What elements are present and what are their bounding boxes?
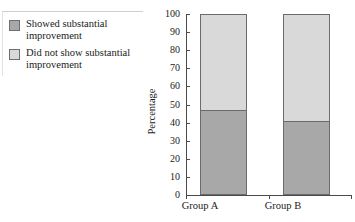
bar-segment-no-improvement-a <box>201 15 246 110</box>
y-axis-title: Percentage <box>146 73 157 151</box>
y-axis-ticks: 100 90 80 70 60 50 40 30 20 10 0 <box>160 10 186 195</box>
y-tick-label-50: 50 <box>170 100 180 110</box>
bar-group-b[interactable] <box>283 14 330 195</box>
x-tickmark-right <box>351 195 352 199</box>
legend-label-showed-improvement: Showed substantial improvement <box>26 18 138 41</box>
legend-swatch-icon-light <box>9 49 20 60</box>
x-tick-label-group-a: Group A <box>157 200 243 212</box>
y-tick-label-20: 20 <box>170 154 180 164</box>
x-tickmark-left <box>186 195 187 199</box>
y-tick-label-70: 70 <box>170 63 180 73</box>
y-tick-label-30: 30 <box>170 136 180 146</box>
y-tick-label-80: 80 <box>170 45 180 55</box>
bar-group <box>186 14 352 195</box>
legend-item-showed-improvement: Showed substantial improvement <box>9 18 143 41</box>
bar-group-a[interactable] <box>200 14 247 195</box>
legend-item-no-improvement: Did not show substantial improvement <box>9 47 143 70</box>
y-tick-label-100: 100 <box>165 9 180 19</box>
y-tick-label-60: 60 <box>170 81 180 91</box>
legend-swatch-icon-dark <box>9 20 20 31</box>
plot-area: Percentage 100 90 80 70 60 50 40 30 20 1… <box>138 10 355 222</box>
legend-label-no-improvement: Did not show substantial improvement <box>26 47 138 70</box>
chart-legend: Showed substantial improvement Did not s… <box>2 11 143 76</box>
y-tick-label-90: 90 <box>170 27 180 37</box>
chart-figure: Showed substantial improvement Did not s… <box>0 0 355 222</box>
y-tick-label-10: 10 <box>170 172 180 182</box>
bar-segment-showed-improvement-a <box>201 110 246 194</box>
bar-segment-no-improvement-b <box>284 15 329 121</box>
bar-segment-showed-improvement-b <box>284 121 329 194</box>
y-tick-label-0: 0 <box>175 190 180 200</box>
y-tick-label-40: 40 <box>170 118 180 128</box>
x-tick-label-group-b: Group B <box>240 200 326 212</box>
x-tickmark-middle <box>269 195 270 199</box>
